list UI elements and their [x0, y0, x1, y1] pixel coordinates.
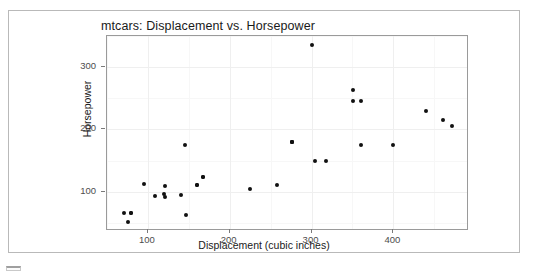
data-point: [441, 118, 445, 122]
chart-card: mtcars: Displacement vs. Horsepower 1002…: [8, 10, 520, 253]
y-tick-mark: [101, 191, 105, 192]
data-point: [424, 109, 428, 113]
data-point: [313, 159, 317, 163]
data-point: [195, 183, 199, 187]
gridline-horizontal-minor: [107, 98, 467, 99]
data-point: [450, 124, 454, 128]
data-point: [391, 143, 395, 147]
data-point: [290, 140, 294, 144]
x-tick-mark: [392, 229, 393, 233]
data-point: [126, 220, 130, 224]
data-point: [201, 175, 205, 179]
gridline-vertical-minor: [107, 36, 108, 229]
data-point: [359, 143, 363, 147]
data-point: [324, 159, 328, 163]
x-axis-title: Displacement (cubic inches): [9, 239, 519, 251]
gridline-horizontal: [107, 192, 467, 193]
gridline-vertical: [393, 36, 394, 229]
y-tick-label: 300: [66, 60, 96, 71]
gridline-horizontal-minor: [107, 36, 467, 37]
chart-title: mtcars: Displacement vs. Horsepower: [101, 19, 315, 33]
gridline-vertical-minor: [189, 36, 190, 229]
x-tick-mark: [147, 229, 148, 233]
data-point: [142, 182, 146, 186]
y-axis-title: Horsepower: [81, 81, 93, 138]
gridline-vertical-minor: [434, 36, 435, 229]
x-tick-mark: [229, 229, 230, 233]
data-point: [153, 194, 157, 198]
data-point: [163, 195, 167, 199]
data-point: [179, 193, 183, 197]
data-point: [359, 99, 363, 103]
gridline-vertical: [312, 36, 313, 229]
gridline-horizontal: [107, 129, 467, 130]
data-point: [122, 211, 126, 215]
data-point: [248, 187, 252, 191]
plot-panel: [106, 35, 468, 230]
gridline-horizontal: [107, 67, 467, 68]
gridline-vertical: [148, 36, 149, 229]
y-tick-mark: [101, 66, 105, 67]
x-tick-mark: [311, 229, 312, 233]
data-point: [275, 183, 279, 187]
data-point: [184, 213, 188, 217]
data-point: [183, 143, 187, 147]
y-tick-mark: [101, 128, 105, 129]
gridline-vertical: [230, 36, 231, 229]
gridline-horizontal-minor: [107, 161, 467, 162]
gridline-horizontal-minor: [107, 223, 467, 224]
data-point: [351, 88, 355, 92]
gridline-vertical-minor: [271, 36, 272, 229]
gridline-vertical-minor: [352, 36, 353, 229]
data-point: [163, 184, 167, 188]
y-tick-label: 100: [66, 185, 96, 196]
data-point: [351, 99, 355, 103]
data-point: [310, 43, 314, 47]
data-point: [129, 211, 133, 215]
partial-ui-element: [6, 266, 21, 271]
